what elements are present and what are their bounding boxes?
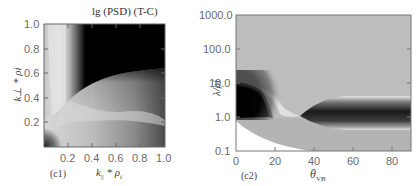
right-x-tick: 40 <box>308 155 320 167</box>
right-panel-label: (c2) <box>241 170 257 181</box>
right-x-tick: 20 <box>269 155 281 167</box>
right-y-tick: 100.0 <box>203 43 231 55</box>
right-x-tick: 60 <box>347 155 359 167</box>
right-x-axis-label: θVB <box>310 167 326 183</box>
right-y-tick: 0.1 <box>215 145 230 157</box>
right-y-tick: 1.0 <box>215 111 230 123</box>
right-y-tick: 1000.0 <box>199 9 233 21</box>
right-y-axis-label: λ/ρi <box>210 68 222 108</box>
right-x-tick: 80 <box>386 155 398 167</box>
right-x-tick: 0 <box>233 155 239 167</box>
